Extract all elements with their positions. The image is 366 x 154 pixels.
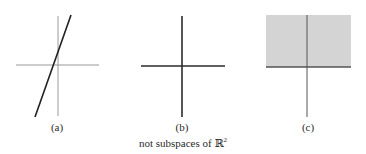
panel-c (266, 15, 351, 117)
caption-exponent: 2 (224, 136, 228, 144)
panel-b (141, 16, 225, 117)
upper-half-plane-region (266, 15, 351, 67)
panel-label-b: (b) (176, 121, 189, 133)
panel-label-a: (a) (51, 121, 63, 133)
real-numbers-symbol: ℝ (214, 137, 223, 149)
panel-a (16, 15, 99, 117)
caption-text: not subspaces of (139, 137, 214, 149)
line-not-through-origin (35, 15, 71, 117)
figure: (a) (b) (c) not subspaces of ℝ2 (0, 0, 366, 154)
figure-caption: not subspaces of ℝ2 (139, 137, 227, 150)
panel-label-c: (c) (302, 121, 314, 133)
